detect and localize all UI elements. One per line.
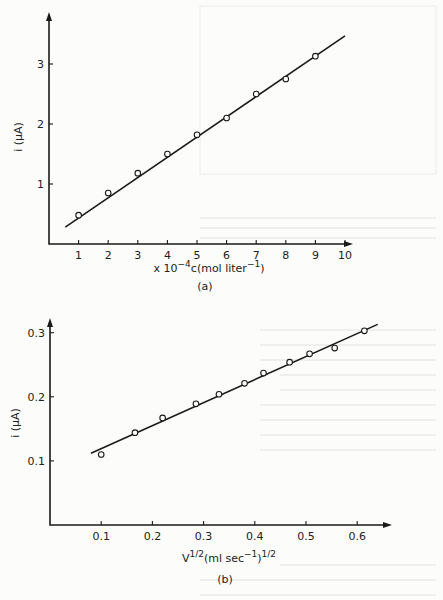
- y-axis-label: i (μA): [9, 408, 22, 438]
- data-point: [242, 381, 248, 387]
- data-point: [132, 430, 138, 436]
- y-tick-label: 0.1: [28, 455, 46, 468]
- y-axis-arrow-icon: [47, 318, 53, 327]
- axes-lines: [50, 324, 386, 525]
- data-point: [307, 351, 313, 357]
- data-point: [160, 415, 166, 421]
- data-point: [287, 359, 293, 365]
- x-tick-label: 0.5: [297, 530, 315, 543]
- x-tick-label: 0.1: [92, 530, 110, 543]
- x-tick-label: 0.6: [348, 530, 366, 543]
- scanned-figure-page: 12345678910123i (μA)x 10−4c(mol liter−1)…: [0, 0, 443, 600]
- panel-label: (b): [217, 573, 233, 586]
- data-point: [362, 328, 368, 334]
- y-tick-label: 0.3: [28, 327, 46, 340]
- data-point: [261, 370, 267, 376]
- data-point: [98, 452, 104, 458]
- data-point: [193, 401, 199, 407]
- chart-b-flowrate-vs-current: 0.10.20.30.40.50.60.10.20.3i (μA)V1/2(ml…: [0, 0, 443, 600]
- y-tick-label: 0.2: [28, 391, 46, 404]
- x-tick-label: 0.3: [195, 530, 213, 543]
- x-axis-arrow-icon: [383, 522, 392, 528]
- x-tick-label: 0.2: [144, 530, 162, 543]
- x-tick-label: 0.4: [246, 530, 264, 543]
- data-point: [332, 345, 338, 351]
- x-axis-label: V1/2(ml sec−1)1/2: [182, 549, 276, 565]
- data-point: [216, 391, 222, 397]
